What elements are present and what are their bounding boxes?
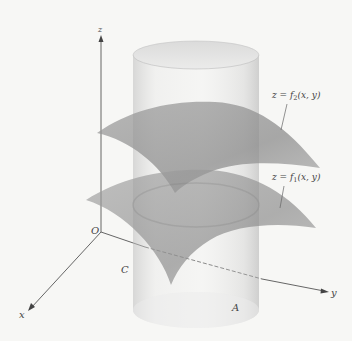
x-axis [31,232,101,308]
y-axis-end [262,279,324,291]
solid-between-surfaces-diagram: z O x y C A z = f2(x, y) z = f1(x, y) [0,0,352,341]
boundary-curve-label: C [121,264,129,275]
origin-label: O [91,225,99,236]
z-axis-label: z [97,25,103,34]
y-axis-arrow-icon [321,289,330,294]
x-axis-label: x [19,309,25,320]
upper-surface-label: z = f2(x, y) [271,90,321,102]
base-region-label: A [231,302,239,313]
z-axis-arrow-icon [99,35,104,42]
f2-leader-line [281,104,287,130]
lower-surface-label: z = f1(x, y) [271,172,321,184]
y-axis-label: y [330,287,337,298]
base-region-ellipse [133,292,259,328]
